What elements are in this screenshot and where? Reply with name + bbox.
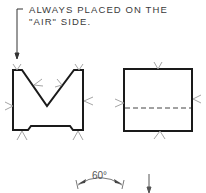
arrowhead-right-icon (114, 179, 122, 184)
technical-drawing: 60° (0, 0, 206, 193)
arrowhead-left-icon (78, 179, 86, 184)
rectangular-block-outline (124, 69, 192, 131)
leader-arrow-icon (15, 9, 23, 59)
angle-label: 60° (92, 170, 107, 181)
v-block-outline (13, 70, 83, 130)
angle-dimension: 60° (76, 170, 124, 189)
rect-contact-symbol-icons (115, 62, 201, 139)
down-arrow-icon (147, 174, 151, 193)
